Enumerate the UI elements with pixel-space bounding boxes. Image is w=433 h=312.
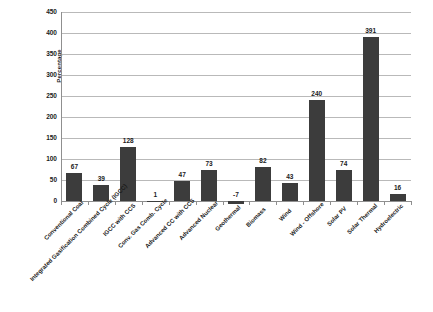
- x-axis-category-labels: Conventional CoalIntegrated Gasification…: [0, 0, 433, 312]
- x-axis-category-label: Geothermal: [214, 204, 242, 232]
- x-axis-category-label: Biomass: [245, 206, 267, 228]
- x-axis-category-label: Integrated Gasification Combined Cycle (…: [29, 183, 128, 282]
- x-axis-category-label: Advanced CC with CCS: [144, 197, 196, 249]
- x-axis-category-label: Wind - Offshore: [289, 202, 325, 238]
- x-axis-category-label: Hydroelectric: [373, 203, 404, 234]
- x-axis-category-label: Solar PV: [326, 206, 348, 228]
- bar-chart: Percentage 050100150200250300350400450 6…: [0, 0, 433, 312]
- x-axis-category-label: Wind: [277, 208, 292, 223]
- x-axis-category-label: Conv. Gas Comb. Cycle: [116, 197, 168, 249]
